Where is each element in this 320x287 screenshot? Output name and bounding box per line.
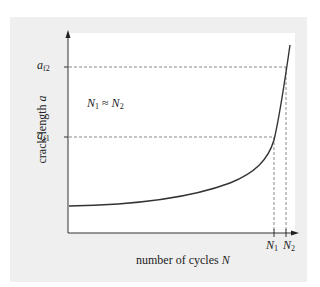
annotation-n1-approx-n2: N1 ≈ N2 bbox=[87, 96, 124, 111]
crack-growth-curve bbox=[69, 45, 290, 206]
x-axis-label: number of cycles N bbox=[136, 253, 230, 268]
tick-af1: af1 bbox=[37, 128, 50, 143]
tick-n1: N1 bbox=[266, 238, 278, 253]
y-axis-arrow-icon bbox=[66, 30, 71, 38]
x-axis-arrow-icon bbox=[291, 231, 299, 236]
tick-af2: af2 bbox=[37, 58, 50, 73]
tick-n2: N2 bbox=[283, 238, 295, 253]
